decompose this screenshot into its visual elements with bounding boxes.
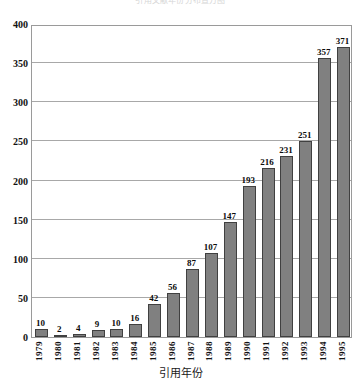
bar-value-label: 56 <box>159 283 187 292</box>
bar <box>54 335 67 337</box>
y-axis-tick-label: 50 <box>2 294 28 304</box>
gridline <box>32 62 351 63</box>
plot-area <box>31 25 352 338</box>
x-axis-tick-label: 1980 <box>54 341 63 361</box>
y-axis-tick-label: 350 <box>2 59 28 69</box>
bar <box>148 304 161 337</box>
x-axis-tick-label: 1984 <box>130 341 139 361</box>
bar-value-label: 147 <box>215 212 243 221</box>
x-axis-tick-label: 1986 <box>168 341 177 361</box>
x-axis-tick-label: 1979 <box>35 341 44 361</box>
x-axis-tick-label: 1981 <box>73 341 82 361</box>
x-axis-tick-label: 1983 <box>111 341 120 361</box>
bar <box>299 141 312 337</box>
bar <box>73 334 86 337</box>
bar-value-label: 371 <box>329 37 357 46</box>
x-axis-title: 引用年份 <box>0 368 361 380</box>
x-axis-tick-label: 1985 <box>149 341 158 361</box>
x-axis-tick-label: 1989 <box>224 341 233 361</box>
x-axis-tick-label: 1987 <box>187 341 196 361</box>
bar <box>262 168 275 337</box>
x-axis-tick-label: 1994 <box>319 341 328 361</box>
bar <box>318 58 331 337</box>
bar-value-label: 87 <box>178 259 206 268</box>
y-axis-tick-label: 400 <box>2 20 28 30</box>
y-axis-tick-label: 150 <box>2 216 28 226</box>
y-axis-tick-label: 100 <box>2 255 28 265</box>
y-axis-tick-label: 300 <box>2 98 28 108</box>
bar-value-label: 216 <box>253 158 281 167</box>
y-axis-tick-label: 0 <box>2 333 28 343</box>
bar-value-label: 42 <box>140 294 168 303</box>
bar <box>205 253 218 337</box>
bar <box>129 324 142 337</box>
bar <box>92 330 105 337</box>
bar-value-label: 193 <box>234 176 262 185</box>
x-axis-tick-label: 1993 <box>300 341 309 361</box>
bar-value-label: 16 <box>121 314 149 323</box>
bar-value-label: 357 <box>310 48 338 57</box>
bar <box>337 47 350 337</box>
x-axis-tick-label: 1982 <box>92 341 101 361</box>
x-axis-tick-label: 1992 <box>281 341 290 361</box>
bar-value-label: 231 <box>272 146 300 155</box>
bar <box>167 293 180 337</box>
gridline <box>32 101 351 102</box>
y-axis-tick-label: 250 <box>2 137 28 147</box>
bar <box>110 329 123 337</box>
x-axis-tick-label: 1991 <box>262 341 271 361</box>
bar <box>280 156 293 337</box>
x-axis-tick-label: 1995 <box>338 341 347 361</box>
x-axis-tick-label: 1988 <box>205 341 214 361</box>
bar-value-label: 107 <box>196 243 224 252</box>
bar <box>243 186 256 337</box>
x-axis-tick-label: 1990 <box>243 341 252 361</box>
bar-chart: 引用文献年份分布直方图 050100150200250300350400 102… <box>0 0 361 386</box>
bar-value-label: 251 <box>291 131 319 140</box>
chart-title: 引用文献年份分布直方图 <box>0 0 361 5</box>
y-axis-tick-label: 200 <box>2 177 28 187</box>
bar <box>224 222 237 337</box>
bar <box>186 269 199 337</box>
